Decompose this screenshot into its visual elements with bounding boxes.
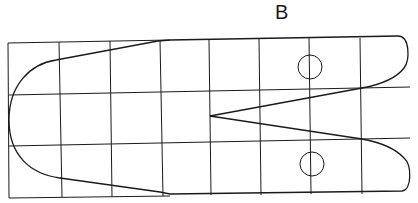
upper-circle: [298, 55, 322, 79]
grid-bottom-line: [9, 196, 170, 198]
grid-vline: [59, 42, 62, 197]
grid: [8, 38, 410, 198]
grid-vline: [209, 40, 211, 195]
grid-vline: [309, 38, 311, 194]
grid-top-line: [8, 40, 170, 43]
lower-circle: [300, 152, 324, 176]
grid-vline: [160, 40, 163, 196]
pattern-top-edge: [9, 36, 408, 120]
pattern-bottom-edge: [9, 116, 410, 194]
pattern-diagram: [0, 0, 418, 203]
grid-vline: [259, 39, 261, 195]
grid-hline: [9, 138, 410, 146]
grid-vline: [360, 38, 362, 194]
grid-vline: [110, 41, 112, 197]
